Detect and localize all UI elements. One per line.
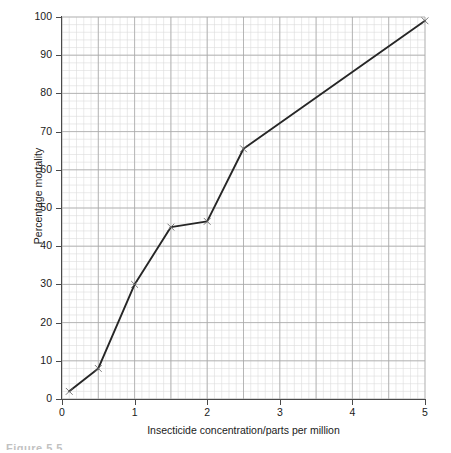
x-tick-mark: [62, 399, 63, 405]
y-tick-label: 10: [24, 355, 52, 366]
x-axis-line: [61, 399, 426, 400]
x-tick-label: 3: [265, 406, 295, 418]
y-tick-mark: [56, 361, 62, 362]
figure-caption-fragment: Figure 5.5: [6, 443, 63, 450]
y-tick-mark: [56, 55, 62, 56]
y-tick-mark: [56, 208, 62, 209]
x-tick-mark: [280, 399, 281, 405]
x-tick-label: 5: [410, 406, 440, 418]
x-tick-mark: [207, 399, 208, 405]
x-tick-label: 2: [192, 406, 222, 418]
x-tick-label: 1: [120, 406, 150, 418]
data-line-series: [69, 21, 425, 392]
y-tick-mark: [56, 17, 62, 18]
data-layer: [62, 17, 425, 399]
data-point-marker: [240, 145, 247, 152]
y-tick-label: 20: [24, 317, 52, 328]
y-tick-mark: [56, 170, 62, 171]
x-tick-label: 0: [47, 406, 77, 418]
data-point-marker: [66, 388, 73, 395]
y-tick-mark: [56, 323, 62, 324]
y-tick-mark: [56, 93, 62, 94]
data-point-markers: [66, 17, 429, 394]
x-tick-mark: [352, 399, 353, 405]
y-tick-label: 100: [24, 11, 52, 22]
x-tick-mark: [425, 399, 426, 405]
plot-area: [62, 17, 425, 399]
x-tick-label: 4: [337, 406, 367, 418]
y-tick-mark: [56, 246, 62, 247]
y-axis-title: Percentage mortality: [32, 96, 44, 296]
figure-container: 0102030405060708090100 012345 Insecticid…: [0, 0, 451, 453]
y-tick-label: 0: [24, 393, 52, 404]
y-tick-mark: [56, 132, 62, 133]
x-tick-mark: [135, 399, 136, 405]
y-tick-mark: [56, 284, 62, 285]
x-axis-title: Insecticide concentration/parts per mill…: [62, 424, 425, 436]
y-tick-label: 90: [24, 49, 52, 60]
